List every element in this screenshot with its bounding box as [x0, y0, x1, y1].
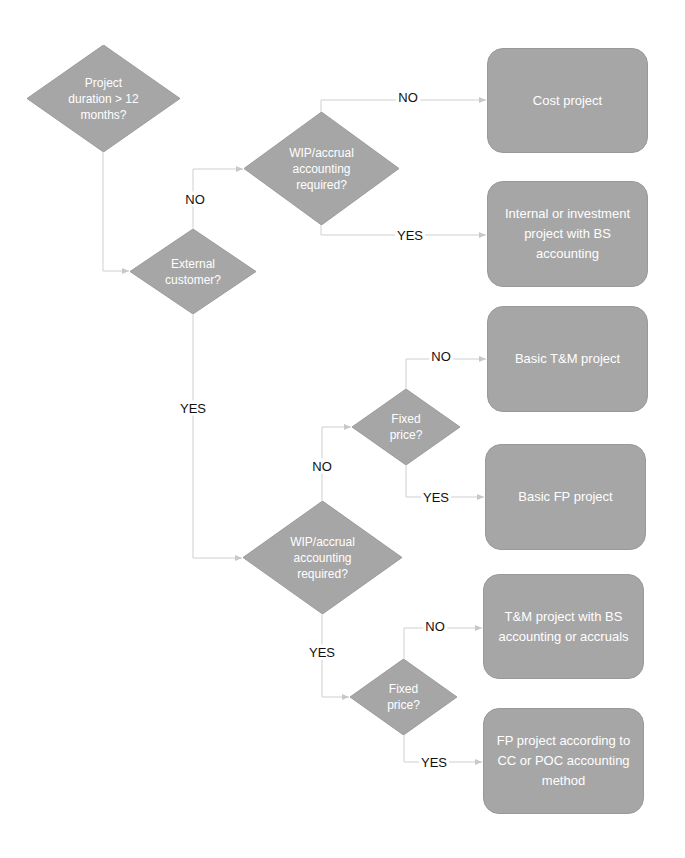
outcome-fp-cc-poc: FP project according to CC or POC accoun…	[483, 708, 644, 814]
label-lower-wip-yes: YES	[307, 645, 337, 660]
outcome-basic-fp: Basic FP project	[485, 444, 646, 550]
label-upper-wip-yes: YES	[395, 228, 425, 243]
label-fixed-lower-yes: YES	[419, 755, 449, 770]
label-upper-wip-no: NO	[396, 90, 420, 105]
decision-fixed-price-upper: Fixedprice?	[352, 389, 460, 465]
decision-external-customer: Externalcustomer?	[130, 229, 256, 314]
outcome-internal-project: Internal or investment project with BS a…	[487, 181, 648, 287]
label-fixed-upper-no: NO	[429, 349, 453, 364]
label-external-no: NO	[183, 192, 207, 207]
label-fixed-lower-no: NO	[423, 619, 447, 634]
outcome-cost-project: Cost project	[487, 48, 648, 153]
label-lower-wip-no: NO	[310, 459, 334, 474]
label-external-yes: YES	[178, 401, 208, 416]
outcome-basic-tm: Basic T&M project	[487, 306, 648, 412]
decision-project-duration: Projectduration > 12months?	[27, 45, 180, 152]
decision-wip-upper: WIP/accrualaccountingrequired?	[244, 112, 399, 225]
decision-fixed-price-lower: Fixedprice?	[350, 659, 457, 735]
label-fixed-upper-yes: YES	[421, 490, 451, 505]
outcome-tm-bs: T&M project with BS accounting or accrua…	[483, 574, 644, 679]
decision-wip-lower: WIP/accrualaccountingrequired?	[243, 501, 402, 614]
